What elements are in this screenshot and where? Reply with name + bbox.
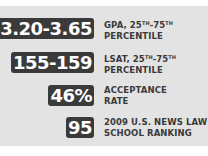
gpa-value-badge: 3.20-3.65 <box>0 18 94 39</box>
stat-row-gpa: 3.20-3.65 GPA, 25TH-75TH PERCENTILE <box>0 18 208 42</box>
lsat-label: LSAT, 25TH-75TH PERCENTILE <box>104 52 176 76</box>
gpa-label: GPA, 25TH-75TH PERCENTILE <box>104 18 173 42</box>
acceptance-label: ACCEPTANCE RATE <box>104 85 167 107</box>
stat-row-lsat: 155-159 LSAT, 25TH-75TH PERCENTILE <box>0 52 208 76</box>
ranking-label: 2009 U.S. NEWS LAW SCHOOL RANKING <box>104 117 207 139</box>
ranking-value-badge: 95 <box>66 117 94 138</box>
stats-panel: 3.20-3.65 GPA, 25TH-75TH PERCENTILE 155-… <box>0 6 208 146</box>
stat-row-ranking: 95 2009 U.S. NEWS LAW SCHOOL RANKING <box>0 117 208 141</box>
acceptance-value-badge: 46% <box>48 85 94 106</box>
lsat-value-badge: 155-159 <box>11 52 94 73</box>
stat-row-acceptance: 46% ACCEPTANCE RATE <box>0 85 208 109</box>
